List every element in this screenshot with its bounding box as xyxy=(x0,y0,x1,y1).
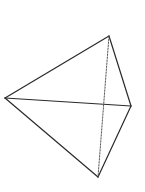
tetrahedron-edges xyxy=(5,36,131,177)
tetrahedron-diagram xyxy=(0,0,145,192)
edge-left-bottom xyxy=(5,98,98,177)
edge-left-top xyxy=(5,36,109,98)
edge-top-right xyxy=(109,36,131,106)
edge-left-right xyxy=(5,98,131,106)
